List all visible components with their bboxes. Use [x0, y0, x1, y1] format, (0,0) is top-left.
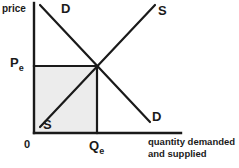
equilibrium-quantity-label: Qe — [89, 139, 104, 156]
quantity-axis-label-line2: and supplied — [148, 148, 207, 159]
demand-curve-bottom-label: D — [152, 110, 161, 123]
equilibrium-price-subscript: e — [19, 63, 24, 73]
supply-curve-bottom-label: S — [43, 118, 52, 131]
demand-curve-top-label: D — [61, 2, 70, 15]
origin-label: 0 — [24, 139, 30, 150]
equilibrium-price-label: Pe — [10, 56, 24, 73]
quantity-axis-label-line1: quantity demanded — [148, 136, 235, 147]
quantity-axis-label: quantity demanded and supplied — [148, 136, 239, 160]
supply-demand-diagram: price D S D S Pe Qe 0 quantity demanded … — [0, 0, 239, 168]
supply-curve-top-label: S — [158, 4, 167, 17]
equilibrium-quantity-subscript: e — [99, 146, 104, 156]
equilibrium-quantity-symbol: Q — [89, 138, 99, 153]
price-axis-label: price — [2, 4, 26, 14]
equilibrium-price-symbol: P — [10, 55, 19, 70]
